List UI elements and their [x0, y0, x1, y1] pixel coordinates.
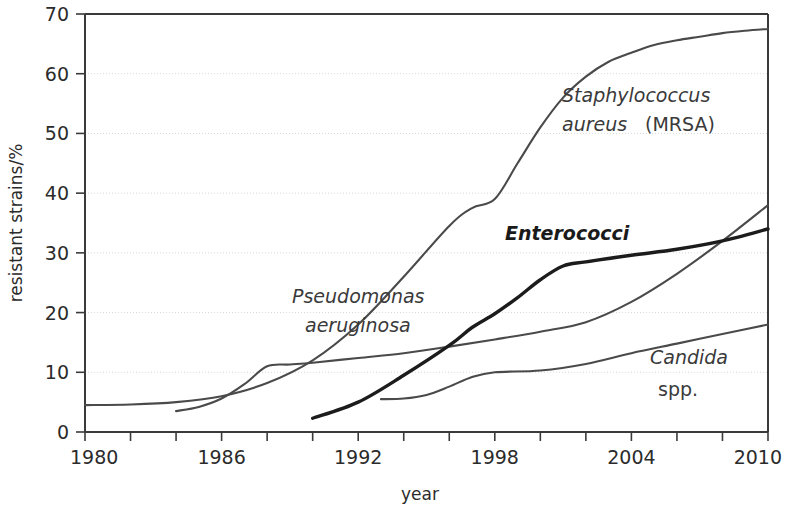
y-tick-label-60: 60	[45, 63, 69, 85]
tickmarks-group	[76, 14, 768, 441]
x-tick-label-2010: 2010	[734, 446, 782, 468]
series-label-staphylococcus-line1: Staphylococcus	[562, 84, 710, 106]
x-tick-labels-group: 198019861992199820042010	[70, 446, 782, 468]
x-tick-label-2004: 2004	[607, 446, 655, 468]
series-label-pseudomonas-line1: Pseudomonas	[292, 285, 425, 307]
series-label-staphylococcus-line2: aureus (MRSA)	[562, 113, 715, 135]
y-tick-label-40: 40	[45, 182, 69, 204]
y-tick-label-0: 0	[57, 421, 69, 443]
y-axis-title: resistant strains/%	[6, 144, 26, 303]
y-tick-label-30: 30	[45, 242, 69, 264]
y-tick-label-50: 50	[45, 122, 69, 144]
series-label-candida: Candida	[650, 346, 728, 368]
y-tick-labels-group: 010203040506070	[45, 3, 69, 443]
x-tick-label-1980: 1980	[70, 446, 118, 468]
x-tick-label-1992: 1992	[334, 446, 382, 468]
series-label-spp: spp.	[658, 378, 698, 400]
x-axis-title: year	[401, 484, 439, 504]
x-tick-label-1986: 1986	[197, 446, 245, 468]
series-label-mrsa: (MRSA)	[645, 113, 715, 135]
line-chart-svg: 010203040506070 198019861992199820042010…	[0, 0, 796, 516]
chart-container: 010203040506070 198019861992199820042010…	[0, 0, 796, 516]
y-tick-label-10: 10	[45, 361, 69, 383]
series-label-aureus: aureus	[562, 113, 627, 135]
series-label-pseudomonas-line2: aeruginosa	[305, 314, 411, 336]
x-tick-label-1998: 1998	[471, 446, 519, 468]
y-tick-label-70: 70	[45, 3, 69, 25]
y-tick-label-20: 20	[45, 302, 69, 324]
series-label-enterococci: Enterococci	[505, 222, 630, 244]
